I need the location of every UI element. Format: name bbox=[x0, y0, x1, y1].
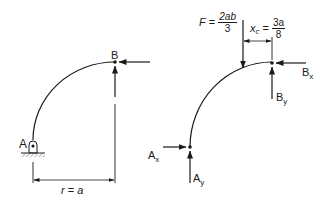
left-figure bbox=[21, 60, 150, 183]
centroid-fraction: 3a8 bbox=[272, 17, 285, 40]
centroid-eq: = bbox=[260, 22, 273, 34]
centroid-denominator: 8 bbox=[276, 29, 282, 40]
force-fraction: 2ab3 bbox=[218, 11, 237, 34]
centroid-numerator: 3a bbox=[272, 17, 285, 29]
force-eq: = bbox=[206, 16, 219, 28]
point-a-label: A bbox=[19, 138, 27, 150]
reaction-ay-sub: y bbox=[200, 178, 204, 187]
point-b-label: B bbox=[111, 50, 118, 61]
reaction-ay-label: Ay bbox=[193, 173, 204, 184]
reaction-bx-label: Bx bbox=[302, 67, 313, 78]
quarter-arc-beam bbox=[33, 62, 115, 140]
centroid-sub: c bbox=[256, 27, 260, 36]
force-denominator: 3 bbox=[225, 23, 231, 34]
centroid-label: xc = 3a8 bbox=[250, 17, 285, 40]
reaction-ax-sub: x bbox=[155, 155, 159, 164]
reaction-ax-label: Ax bbox=[148, 150, 159, 161]
quarter-arc-free-body bbox=[190, 62, 272, 147]
force-numerator: 2ab bbox=[218, 11, 237, 23]
force-label: F = 2ab3 bbox=[199, 11, 237, 34]
point-b-dot bbox=[270, 61, 274, 65]
dimension-eq: = bbox=[65, 184, 78, 196]
reaction-by-sub: y bbox=[283, 97, 287, 106]
dimension-val: a bbox=[77, 184, 83, 196]
dimension-label-r: r = a bbox=[61, 185, 83, 196]
reaction-bx-sub: x bbox=[309, 72, 313, 81]
reaction-by-label: By bbox=[276, 92, 287, 103]
centroid-var: x bbox=[250, 22, 256, 34]
force-var: F bbox=[199, 16, 206, 28]
point-a-dot bbox=[188, 145, 192, 149]
